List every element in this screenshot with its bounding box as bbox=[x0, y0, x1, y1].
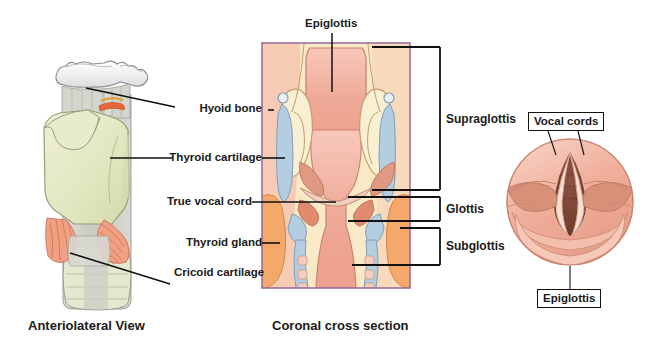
label-supraglottis: Supraglottis bbox=[446, 113, 516, 125]
caption-coronal-cross-section: Coronal cross section bbox=[272, 318, 409, 333]
caption-anterolateral-view: Anteriolateral View bbox=[28, 318, 145, 333]
label-box-epiglottis: Epiglottis bbox=[537, 289, 601, 308]
coronal-cross-section-illustration bbox=[262, 43, 410, 291]
figure-canvas: Epiglottis Hyoid bone Thyroid cartilage … bbox=[0, 0, 650, 351]
label-box-vocal-cords: Vocal cords bbox=[528, 112, 604, 131]
label-thyroid-cartilage: Thyroid cartilage bbox=[62, 152, 262, 164]
label-true-vocal-cord: True vocal cord bbox=[52, 196, 252, 208]
label-epiglottis-top: Epiglottis bbox=[305, 18, 357, 30]
label-glottis: Glottis bbox=[446, 203, 484, 215]
label-hyoid-bone: Hyoid bone bbox=[62, 103, 262, 115]
label-cricoid-cartilage: Cricoid cartilage bbox=[174, 267, 264, 279]
laryngoscopic-view-illustration bbox=[506, 139, 634, 266]
label-thyroid-gland: Thyroid gland bbox=[62, 237, 262, 249]
label-subglottis: Subglottis bbox=[446, 240, 505, 252]
